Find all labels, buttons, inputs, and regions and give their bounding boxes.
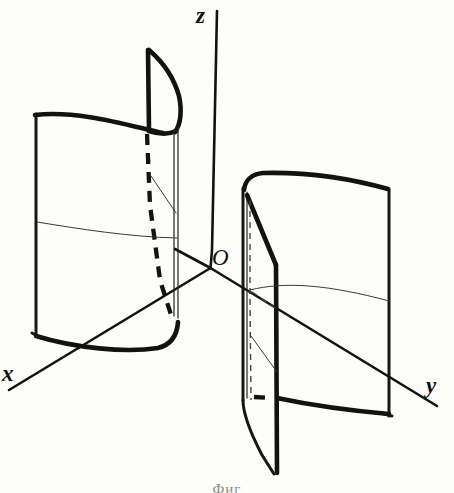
right-sheet-fold-edge [247,195,276,265]
axis-origin-stub [175,249,211,268]
right-sheet-bottom-tail [243,400,274,474]
right-sheet-group [243,173,392,474]
left-sheet-fin-vertical [148,50,149,131]
left-sheet-top-rim-back [149,131,176,134]
left-sheet-inner-hairline [151,176,176,213]
right-sheet-hidden-edge [250,200,251,400]
y-axis-label: y [423,373,437,398]
right-sheet-bottom-right-corner [384,414,392,416]
figure-caption-partial: Фиг [0,479,454,493]
left-sheet-bottom-rim [36,322,178,350]
right-sheet-bottom-rim [277,398,389,414]
left-sheet-hidden-edge [147,134,172,318]
right-sheet-mid-contour [250,285,389,301]
right-sheet-inner-hairline [251,336,277,372]
left-sheet-group [32,50,181,350]
z-axis-line [211,11,218,268]
left-sheet-top-rim [35,114,163,133]
right-sheet-top-rim [244,173,388,190]
left-sheet-fold-edge [149,50,181,132]
origin-label: O [212,245,229,270]
x-axis-line [9,268,211,390]
right-sheet-bottom-hidden-stub [254,397,272,398]
right-sheet-fold-vertical [276,265,277,473]
geometry-figure-svg: z x y O [0,0,454,493]
x-axis-label: x [1,361,14,386]
z-axis-label: z [195,3,205,28]
figure-canvas: z x y O Фиг [0,0,454,493]
label-group: z x y O [1,3,437,398]
